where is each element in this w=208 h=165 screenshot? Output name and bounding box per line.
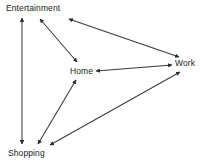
edge-entertainment-work <box>69 19 179 57</box>
node-label-entertainment: Entertainment <box>6 3 60 13</box>
edge-entertainment-home <box>40 19 77 62</box>
edge-shopping-work <box>50 72 180 145</box>
activity-location-diagram: Entertainment Home Work Shopping <box>0 0 208 165</box>
graph-edges-canvas <box>0 0 208 165</box>
edge-home-shopping <box>38 80 76 144</box>
edge-home-work <box>96 65 172 71</box>
node-label-home: Home <box>70 66 93 76</box>
node-label-shopping: Shopping <box>8 148 45 158</box>
node-label-work: Work <box>175 58 195 68</box>
